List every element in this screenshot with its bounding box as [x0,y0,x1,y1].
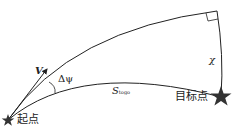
right-angle-mark [206,13,218,21]
distance-symbol: S [112,85,119,96]
target-label: 目标点 [175,91,208,102]
heading-error-label: Δψ [58,74,73,84]
start-label: 起点 [17,114,39,125]
distance-label: Stogo [112,81,130,97]
target-star-icon [211,86,232,106]
chi-label: χ [209,55,215,65]
start-star-icon [2,114,15,126]
velocity-label: V [35,66,43,76]
heading-error-arc [49,82,55,93]
right-arc-chi [217,11,222,97]
distance-subscript: togo [119,89,130,95]
